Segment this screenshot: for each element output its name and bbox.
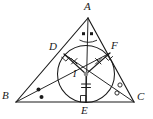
geometry-figure: A B C D E F I <box>0 0 153 119</box>
label-B: B <box>2 90 9 101</box>
equal-angle-dots-at-A <box>80 32 98 42</box>
angle-dot-b-1 <box>37 88 41 92</box>
angle-dot-a-1 <box>82 32 85 35</box>
label-A: A <box>84 1 91 12</box>
geometry-canvas <box>0 0 153 119</box>
label-D: D <box>49 41 57 52</box>
equal-angle-dots-at-B <box>37 88 44 100</box>
right-angle-at-E <box>81 96 87 103</box>
bisector-BF <box>16 53 110 102</box>
angle-dot-a-2 <box>90 32 93 35</box>
angle-circle-c-1 <box>118 83 122 87</box>
angle-dot-b-2 <box>40 95 44 99</box>
incenter-point <box>84 72 89 77</box>
label-I: I <box>73 69 76 79</box>
angle-circle-c-2 <box>115 91 119 95</box>
label-F: F <box>111 40 118 51</box>
side-AB <box>16 18 88 102</box>
label-E: E <box>81 105 88 116</box>
label-C: C <box>137 91 144 102</box>
